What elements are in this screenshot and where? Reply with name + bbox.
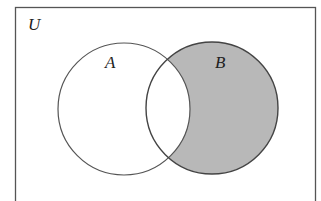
universe-label: U	[28, 15, 42, 34]
venn-diagram: U A B	[0, 0, 321, 201]
set-a-label: A	[104, 53, 116, 72]
set-b-label: B	[215, 53, 226, 72]
